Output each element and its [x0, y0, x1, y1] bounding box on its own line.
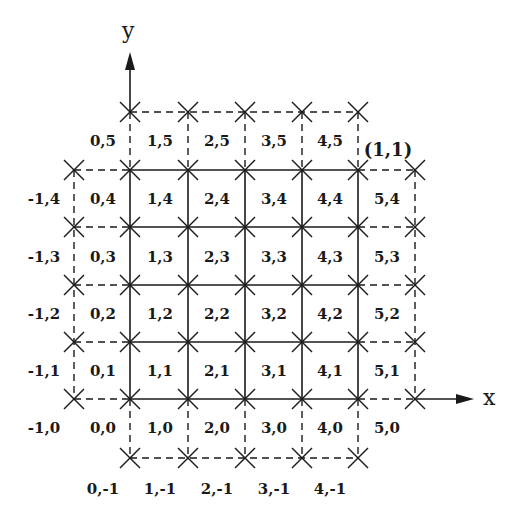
y-axis-label: y — [121, 18, 135, 43]
cell-label: 2,4 — [204, 190, 230, 208]
cell-label: 3,5 — [261, 132, 287, 150]
cell-label: 5,1 — [374, 362, 400, 380]
cell-label: -1,1 — [28, 362, 60, 380]
cell-label: 3,2 — [261, 305, 287, 323]
cell-label: 3,3 — [261, 248, 287, 266]
cell-label: -1,4 — [28, 190, 60, 208]
cell-label: 4,-1 — [314, 480, 346, 498]
cell-label: 0,5 — [90, 132, 116, 150]
cell-label: 4,0 — [317, 419, 343, 437]
cell-label: 1,2 — [147, 305, 173, 323]
cell-label: 5,2 — [374, 305, 400, 323]
cell-label: 5,4 — [374, 190, 400, 208]
cell-label: 1,3 — [147, 248, 173, 266]
pixel-grid-diagram: y x — [0, 0, 522, 526]
cell-label: 2,-1 — [201, 480, 233, 498]
cell-label: 3,-1 — [258, 480, 290, 498]
cell-label: 5,3 — [374, 248, 400, 266]
cell-label: 0,1 — [90, 362, 116, 380]
cell-label: 1,0 — [147, 419, 173, 437]
x-axis-label: x — [483, 385, 496, 410]
cell-label: 1,-1 — [144, 480, 176, 498]
cell-label: 1,5 — [147, 132, 173, 150]
cell-label: 0,2 — [90, 305, 116, 323]
cell-label: 2,1 — [204, 362, 230, 380]
cell-label: 5,0 — [374, 419, 400, 437]
cell-label: 2,0 — [204, 419, 230, 437]
x-axis: x — [415, 385, 496, 410]
cell-label: 2,2 — [204, 305, 230, 323]
cell-label: 0,-1 — [87, 480, 119, 498]
x-axis-arrowhead-icon — [456, 394, 474, 404]
cell-label: 4,1 — [317, 362, 343, 380]
cell-labels: 0,5 1,5 2,5 3,5 4,5 -1,4 0,4 1,4 2,4 3,4… — [28, 132, 400, 498]
cell-label: 3,1 — [261, 362, 287, 380]
cell-label: 0,3 — [90, 248, 116, 266]
cell-label: 4,5 — [317, 132, 343, 150]
cell-label: 3,0 — [261, 419, 287, 437]
cell-label: -1,2 — [28, 305, 60, 323]
cell-label: -1,0 — [28, 419, 60, 437]
cell-label: 1,4 — [147, 190, 173, 208]
corner-coordinate-label: (1,1) — [364, 139, 412, 160]
y-axis: y — [121, 18, 135, 112]
cell-label: 4,4 — [317, 190, 343, 208]
cell-label: 0,4 — [90, 190, 116, 208]
cell-label: -1,3 — [28, 248, 60, 266]
cell-label: 1,1 — [147, 362, 173, 380]
y-axis-arrowhead-icon — [125, 52, 135, 70]
cell-label: 2,5 — [204, 132, 230, 150]
cell-label: 2,3 — [204, 248, 230, 266]
cell-label: 4,2 — [317, 305, 343, 323]
cell-label: 4,3 — [317, 248, 343, 266]
cell-label: 3,4 — [261, 190, 287, 208]
cell-label: 0,0 — [90, 419, 116, 437]
